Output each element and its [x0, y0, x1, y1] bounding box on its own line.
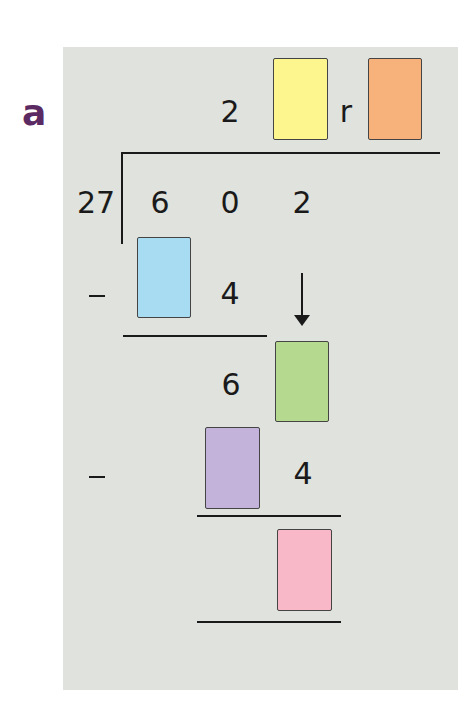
first-product-units: 4 [220, 279, 239, 309]
worksheet-panel [63, 47, 458, 690]
quotient-digit: 2 [220, 97, 239, 127]
dividend-digit-hundreds: 6 [150, 188, 169, 218]
problem-label: a [22, 92, 46, 133]
subtraction-line-1 [123, 335, 267, 337]
dividend-digit-tens: 0 [220, 188, 239, 218]
brought-down-digit-box[interactable] [275, 341, 329, 422]
bring-down-arrow-icon [292, 273, 312, 327]
division-bar [122, 152, 440, 154]
remainder-box[interactable] [368, 58, 422, 140]
minus-sign [89, 295, 105, 297]
quotient-units-box[interactable] [273, 58, 328, 140]
subtraction-line-2 [197, 515, 341, 517]
dividend-digit-units: 2 [292, 188, 311, 218]
final-remainder-box[interactable] [277, 529, 332, 611]
first-difference-tens: 6 [221, 370, 240, 400]
first-product-tens-box[interactable] [137, 237, 191, 318]
divisor: 27 [77, 188, 115, 218]
second-product-tens-box[interactable] [205, 427, 260, 509]
second-product-units: 4 [293, 459, 312, 489]
minus-sign [89, 476, 105, 478]
remainder-letter: r [340, 97, 352, 127]
division-bracket [121, 152, 123, 244]
final-line [197, 621, 341, 623]
